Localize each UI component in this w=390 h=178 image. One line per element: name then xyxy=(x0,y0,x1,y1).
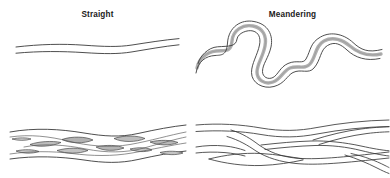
meandering-channel-sketch xyxy=(195,0,390,89)
straight-channel-sketch xyxy=(0,0,195,89)
panel-braided: Braided xyxy=(0,89,195,178)
anastomosing-channel-sketch xyxy=(195,89,390,178)
braided-channel-sketch xyxy=(0,89,195,178)
panel-meandering: Meandering xyxy=(195,0,390,89)
anastomosing-channel-branch-b xyxy=(227,137,389,165)
anastomosing-channel-right-south xyxy=(319,132,389,145)
braided-bar-9 xyxy=(12,138,31,140)
anastomosing-channel-upper-south xyxy=(196,127,389,137)
braided-bank-south xyxy=(10,151,186,162)
anastomosing-island-left-north xyxy=(209,153,303,159)
meander-thalweg-shadow xyxy=(197,26,381,83)
braided-bank-north xyxy=(10,125,186,136)
anastomosing-channel-left-inlet xyxy=(196,145,245,150)
anastomosing-channel-left-inlet-2 xyxy=(196,152,245,156)
straight-bank-north xyxy=(16,39,179,47)
panel-anastomosing: Anastomosing xyxy=(195,89,390,178)
meander-bank-inner xyxy=(198,31,380,88)
braided-bar-2 xyxy=(62,137,93,143)
meander-thalweg-line xyxy=(197,26,381,83)
river-channel-patterns-figure: Straight Meandering Braided xyxy=(0,0,390,178)
anastomosing-channel-branch-a xyxy=(231,130,389,159)
panel-straight: Straight xyxy=(0,0,195,89)
anastomosing-island-left-south xyxy=(209,159,303,166)
braided-bar-5 xyxy=(114,136,145,141)
